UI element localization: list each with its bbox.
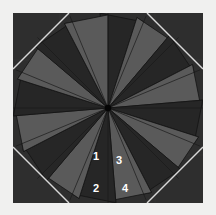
figure-root: 1324 [0,0,216,215]
center-point [105,105,111,111]
label-2: 2 [93,182,99,194]
pinwheel-star-figure: 1324 [0,0,216,215]
label-1: 1 [93,150,99,162]
label-3: 3 [116,154,122,166]
label-4: 4 [122,182,129,194]
